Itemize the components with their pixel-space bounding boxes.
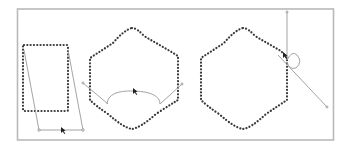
handle-anchor-right[interactable] xyxy=(82,129,84,131)
handle-end-bottom[interactable] xyxy=(326,106,328,108)
handle-anchor-left[interactable] xyxy=(38,129,40,131)
handle-end-top[interactable] xyxy=(286,11,288,13)
diagram-canvas xyxy=(0,0,350,146)
handle-end-right[interactable] xyxy=(181,83,183,85)
handle-end-left[interactable] xyxy=(82,82,84,84)
figure-frame xyxy=(18,9,334,140)
diagram-stage xyxy=(0,0,350,146)
